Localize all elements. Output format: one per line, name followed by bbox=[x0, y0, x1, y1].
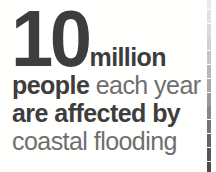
dash-segment bbox=[207, 134, 211, 147]
dash-segment bbox=[207, 37, 211, 50]
dash-segment bbox=[207, 106, 211, 119]
dash-segment bbox=[207, 148, 211, 161]
line-4-regular-text: coastal flooding bbox=[12, 127, 177, 155]
dash-segment bbox=[207, 51, 211, 64]
headline-row: 10 million bbox=[11, 2, 166, 72]
big-number-unit: million bbox=[90, 45, 166, 70]
dashed-vertical-rule bbox=[207, 0, 211, 172]
dash-segment bbox=[207, 0, 211, 9]
statistic-line-4: coastal flooding bbox=[12, 129, 177, 154]
dash-segment bbox=[207, 162, 211, 172]
line-3-bold-text: are affected by bbox=[12, 99, 180, 127]
stat-callout: 10 million people each year are affected… bbox=[0, 0, 216, 172]
statistic-line-3: are affected by bbox=[12, 101, 180, 126]
line-2-regular-text: each year bbox=[89, 71, 200, 99]
dash-segment bbox=[207, 65, 211, 78]
dash-segment bbox=[207, 93, 211, 106]
line-2-bold-text: people bbox=[12, 71, 89, 99]
dash-segment bbox=[207, 10, 211, 23]
statistic-line-2: people each year bbox=[12, 73, 201, 98]
dash-segment bbox=[207, 120, 211, 133]
big-number-value: 10 bbox=[11, 0, 89, 78]
dash-segment bbox=[207, 79, 211, 92]
dash-segment bbox=[207, 24, 211, 37]
